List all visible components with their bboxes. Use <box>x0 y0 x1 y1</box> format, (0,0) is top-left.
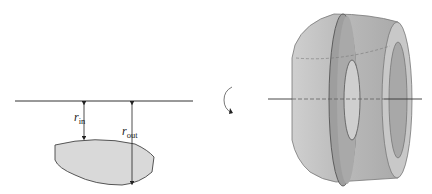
right-panel <box>268 14 422 186</box>
diagram-canvas <box>0 0 432 194</box>
left-panel <box>15 101 193 185</box>
washer-hole <box>344 60 360 140</box>
rotation-arrow-icon <box>224 87 233 114</box>
region-shape <box>55 140 154 185</box>
r-in-label: rin <box>74 110 85 125</box>
inner-hole-end <box>389 42 407 158</box>
r-out-label: rout <box>122 124 138 139</box>
